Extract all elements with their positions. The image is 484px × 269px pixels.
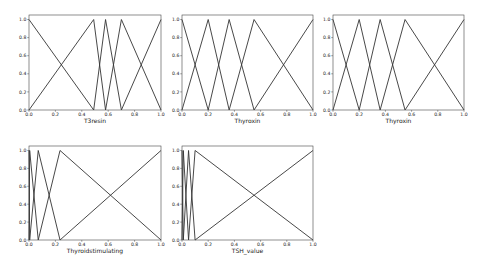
y-tick-label: 1.0 (172, 148, 179, 153)
y-tick-label: 0.4 (323, 71, 330, 76)
y-tick-label: 0.0 (172, 108, 179, 113)
y-tick-label: 0.2 (323, 90, 330, 95)
y-tick-label: 0.0 (172, 238, 179, 243)
x-tick-label: 0.2 (52, 242, 59, 247)
x-tick-label: 0.8 (131, 112, 138, 117)
x-tick-label: 0.0 (178, 112, 185, 117)
y-tick-label: 0.4 (172, 202, 179, 207)
y-tick-label: 1.0 (323, 17, 330, 22)
x-tick-label: 0.0 (329, 112, 336, 117)
x-tick-label: 1.0 (157, 112, 164, 117)
x-tick-label: 0.2 (356, 112, 363, 117)
x-axis-label: T3resin (83, 117, 106, 124)
y-tick-label: 1.0 (172, 17, 179, 22)
y-tick-label: 0.8 (19, 166, 26, 171)
x-axis-label: TSH_value (231, 247, 264, 255)
x-tick-label: 0.2 (205, 112, 212, 117)
x-tick-label: 0.8 (283, 242, 290, 247)
y-tick-label: 0.8 (172, 166, 179, 171)
x-tick-label: 0.2 (205, 242, 212, 247)
y-tick-label: 0.6 (323, 53, 330, 58)
y-tick-label: 0.6 (172, 184, 179, 189)
y-tick-label: 0.8 (323, 35, 330, 40)
y-tick-label: 0.0 (323, 108, 330, 113)
y-tick-label: 0.2 (19, 220, 26, 225)
y-tick-label: 0.4 (19, 71, 26, 76)
x-tick-label: 1.0 (309, 112, 316, 117)
figure-canvas: 0.00.20.40.60.81.00.00.20.40.60.81.0T3re… (0, 0, 484, 269)
x-tick-label: 0.0 (178, 242, 185, 247)
x-axis-label: Thyroxin (234, 117, 261, 125)
y-tick-label: 0.4 (172, 71, 179, 76)
y-tick-label: 0.2 (19, 90, 26, 95)
y-tick-label: 0.8 (172, 35, 179, 40)
y-tick-label: 0.6 (19, 53, 26, 58)
x-tick-label: 0.2 (52, 112, 59, 117)
x-tick-label: 0.0 (25, 112, 32, 117)
y-tick-label: 0.0 (19, 238, 26, 243)
x-tick-label: 1.0 (460, 112, 467, 117)
x-tick-label: 0.8 (131, 242, 138, 247)
x-tick-label: 1.0 (309, 242, 316, 247)
y-tick-label: 0.0 (19, 108, 26, 113)
y-tick-label: 1.0 (19, 17, 26, 22)
y-tick-label: 0.2 (172, 220, 179, 225)
y-tick-label: 1.0 (19, 148, 26, 153)
x-tick-label: 0.8 (283, 112, 290, 117)
y-tick-label: 0.6 (19, 184, 26, 189)
y-tick-label: 0.2 (172, 90, 179, 95)
x-tick-label: 0.8 (434, 112, 441, 117)
x-tick-label: 1.0 (157, 242, 164, 247)
y-tick-label: 0.6 (172, 53, 179, 58)
x-tick-label: 0.0 (25, 242, 32, 247)
x-axis-label: Thyroxin (385, 117, 412, 125)
x-axis-label: Thyroidstimulating (66, 247, 123, 255)
y-tick-label: 0.4 (19, 202, 26, 207)
y-tick-label: 0.8 (19, 35, 26, 40)
